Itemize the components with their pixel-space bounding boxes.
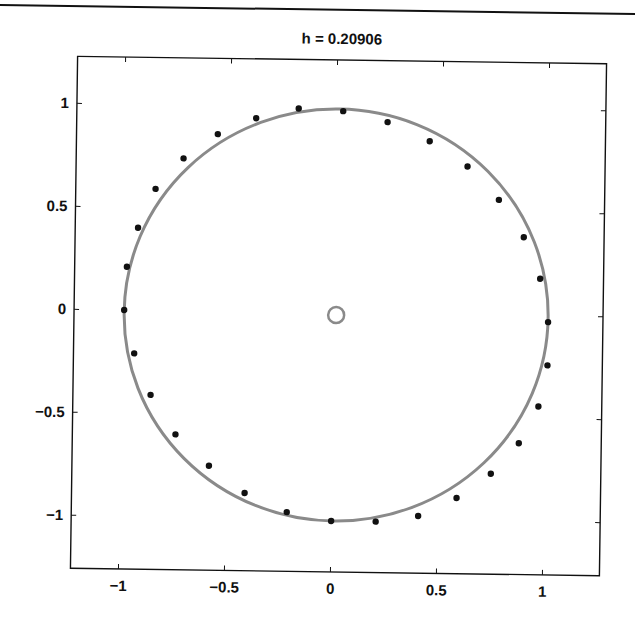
axes-box	[70, 56, 606, 575]
x-tick-label: −0.5	[209, 578, 239, 595]
data-point	[131, 350, 137, 356]
x-tick-label: 1	[538, 583, 547, 600]
chart-figure: h = 0.20906 −1−0.500.51 10.50−0.5−1	[0, 0, 635, 632]
y-tick-label: 1	[60, 94, 69, 111]
data-point	[180, 155, 186, 161]
data-point	[206, 462, 212, 468]
data-point	[415, 513, 421, 519]
unit-circle-curve	[121, 106, 551, 524]
data-point	[537, 275, 543, 281]
data-point	[241, 490, 247, 496]
data-point	[253, 115, 259, 121]
data-point	[328, 518, 334, 524]
data-point	[488, 471, 494, 477]
data-point	[545, 319, 551, 325]
x-tick-label: −1	[110, 577, 127, 594]
y-tick-label: −1	[46, 506, 63, 523]
y-tick-label: 0.5	[47, 197, 68, 214]
data-point	[521, 234, 527, 240]
x-tick-label: 0	[326, 580, 335, 597]
x-tick-label: 0.5	[426, 581, 447, 598]
data-point	[384, 119, 390, 125]
data-point	[426, 138, 432, 144]
data-point	[535, 403, 541, 409]
y-tick-label: −0.5	[35, 403, 65, 420]
data-points	[118, 103, 554, 527]
data-point	[147, 392, 153, 398]
data-point	[464, 163, 470, 169]
data-point	[453, 495, 459, 501]
y-tick-label: 0	[58, 300, 67, 317]
data-point	[544, 362, 550, 368]
y-axis: 10.50−0.5−1	[33, 94, 606, 531]
data-point	[135, 225, 141, 231]
data-point	[172, 431, 178, 437]
data-point	[152, 186, 158, 192]
data-point	[215, 131, 221, 137]
data-point	[516, 440, 522, 446]
center-marker	[328, 307, 344, 323]
chart-title: h = 0.20906	[302, 29, 383, 47]
data-point	[121, 307, 127, 313]
data-point	[496, 197, 502, 203]
